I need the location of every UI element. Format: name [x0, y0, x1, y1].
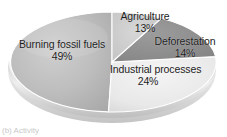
pie-chart-figure: Burning fossil fuels 49% Agriculture 13%…: [0, 0, 227, 137]
figure-caption: (b) Activity: [2, 126, 39, 135]
pie-label-burning-fossil-fuels-line1: Burning fossil: [19, 38, 81, 50]
pie-label-burning-fossil-fuels: Burning fossil fuels 49%: [18, 39, 106, 62]
pie-value-deforestation: 14%: [143, 48, 227, 60]
pie-label-deforestation-line1: Deforestation: [154, 35, 215, 47]
pie-label-industrial-processes-line1: Industrial: [110, 63, 152, 75]
pie-label-agriculture: Agriculture 13%: [108, 11, 182, 34]
pie-label-industrial-processes-line2: processes: [154, 63, 201, 75]
pie-label-agriculture-line1: Agriculture: [120, 10, 169, 22]
pie-value-industrial-processes: 24%: [110, 76, 186, 88]
pie-label-burning-fossil-fuels-line2: fuels: [83, 38, 105, 50]
pie-label-industrial-processes: Industrial processes 24%: [110, 64, 186, 87]
pie-label-deforestation: Deforestation 14%: [143, 36, 227, 59]
pie-value-burning-fossil-fuels: 49%: [18, 51, 106, 63]
pie-value-agriculture: 13%: [108, 23, 182, 35]
